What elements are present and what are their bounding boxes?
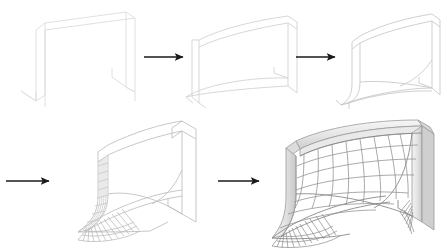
figure-canvas	[0, 0, 447, 250]
stage5-right-post-front-face	[412, 126, 422, 222]
stage5-right-post-side-face	[422, 126, 434, 230]
